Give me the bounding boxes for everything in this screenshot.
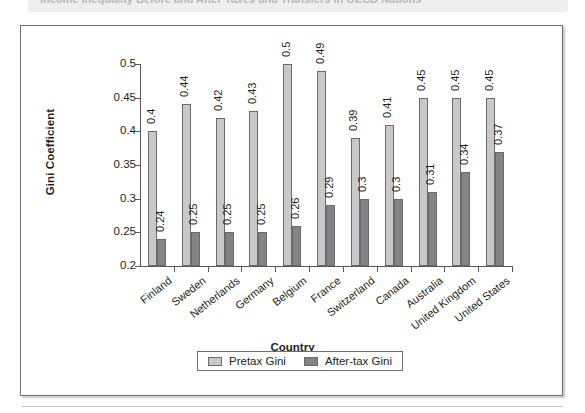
bar-aftertax[interactable]: 0.26: [292, 226, 301, 266]
bar-value-label: 0.42: [213, 89, 224, 110]
y-axis-tick-label: 0.35: [104, 159, 136, 171]
figure-frame: Gini Coefficient 0.20.250.30.350.40.450.…: [20, 25, 563, 396]
bar-value-label: 0.25: [222, 204, 233, 225]
y-axis-tick-label: 0.2: [104, 260, 136, 272]
bar-group[interactable]: 0.420.25: [208, 64, 242, 266]
bar-value-label: 0.39: [348, 110, 359, 131]
bar-value-label: 0.45: [450, 69, 461, 90]
x-axis-tick-mark: [309, 267, 310, 272]
bar-value-label: 0.3: [357, 176, 368, 191]
bar-value-label: 0.45: [416, 69, 427, 90]
figure-caption-strip: Income Inequality Before and After Taxes…: [28, 0, 568, 12]
page-bottom-rule: [22, 406, 563, 407]
y-axis-tick-label: 0.3: [104, 193, 136, 205]
bar-pretax[interactable]: 0.43: [249, 111, 258, 266]
bar-value-label: 0.25: [256, 204, 267, 225]
bar-aftertax[interactable]: 0.3: [360, 199, 369, 266]
bar-value-label: 0.25: [188, 204, 199, 225]
x-axis-tick-mark: [343, 267, 344, 272]
bar-group[interactable]: 0.430.25: [241, 64, 275, 266]
bar-pretax[interactable]: 0.5: [283, 64, 292, 266]
bar-group[interactable]: 0.450.34: [444, 64, 478, 266]
bar-group[interactable]: 0.450.37: [478, 64, 512, 266]
bar-value-label: 0.34: [459, 143, 470, 164]
x-axis-tick-mark: [512, 267, 513, 272]
bar-value-label: 0.5: [281, 42, 292, 57]
bar-group[interactable]: 0.450.31: [411, 64, 445, 266]
bar-aftertax[interactable]: 0.25: [191, 232, 200, 266]
chart-legend: Pretax GiniAfter-tax Gini: [197, 351, 403, 371]
bar-value-label: 0.26: [290, 197, 301, 218]
x-axis-tick-mark: [241, 267, 242, 272]
bar-value-label: 0.43: [247, 83, 258, 104]
x-axis-tick-mark: [478, 267, 479, 272]
bar-pretax[interactable]: 0.49: [317, 71, 326, 266]
legend-swatch: [208, 357, 222, 366]
bar-pretax[interactable]: 0.4: [148, 131, 157, 266]
x-axis-category-label: Finland: [139, 275, 174, 306]
x-axis-tick-mark: [275, 267, 276, 272]
bar-value-label: 0.44: [179, 76, 190, 97]
bar-group[interactable]: 0.490.29: [309, 64, 343, 266]
x-axis-tick-mark: [411, 267, 412, 272]
bar-value-label: 0.24: [155, 211, 166, 232]
bar-group[interactable]: 0.440.25: [174, 64, 208, 266]
legend-swatch: [304, 357, 318, 366]
bar-value-label: 0.41: [382, 96, 393, 117]
bar-value-label: 0.3: [391, 176, 402, 191]
y-axis-tick-label: 0.5: [104, 58, 136, 70]
bar-pretax[interactable]: 0.39: [351, 138, 360, 266]
bar-group[interactable]: 0.40.24: [140, 64, 174, 266]
bar-group[interactable]: 0.50.26: [275, 64, 309, 266]
x-axis-tick-mark: [377, 267, 378, 272]
bar-group[interactable]: 0.390.3: [343, 64, 377, 266]
legend-label: Pretax Gini: [229, 355, 286, 367]
figure-caption-text: Income Inequality Before and After Taxes…: [40, 0, 421, 5]
x-axis-tick-mark: [208, 267, 209, 272]
x-axis-tick-mark: [444, 267, 445, 272]
bar-pretax[interactable]: 0.45: [452, 98, 461, 266]
bar-aftertax[interactable]: 0.3: [394, 199, 403, 266]
legend-label: After-tax Gini: [325, 355, 392, 367]
bar-aftertax[interactable]: 0.24: [157, 239, 166, 266]
legend-item[interactable]: Pretax Gini: [208, 355, 286, 367]
bar-value-label: 0.31: [425, 164, 436, 185]
bar-aftertax[interactable]: 0.34: [461, 172, 470, 266]
plot-area: 0.40.240.440.250.420.250.430.250.50.260.…: [140, 64, 512, 266]
x-axis-tick-mark: [174, 267, 175, 272]
bar-aftertax[interactable]: 0.25: [258, 232, 267, 266]
bar-group[interactable]: 0.410.3: [377, 64, 411, 266]
y-axis-tick-label: 0.25: [104, 226, 136, 238]
bar-pretax[interactable]: 0.42: [216, 118, 225, 266]
bar-value-label: 0.4: [146, 109, 157, 124]
bar-aftertax[interactable]: 0.37: [495, 152, 504, 266]
bar-aftertax[interactable]: 0.31: [428, 192, 437, 266]
bar-pretax[interactable]: 0.41: [385, 125, 394, 266]
y-axis-title: Gini Coefficient: [44, 92, 56, 212]
bar-value-label: 0.29: [324, 177, 335, 198]
bar-value-label: 0.49: [315, 42, 326, 63]
x-axis-line: [140, 266, 513, 267]
bar-pretax[interactable]: 0.44: [182, 104, 191, 266]
y-axis-tick-label: 0.4: [104, 125, 136, 137]
bar-aftertax[interactable]: 0.25: [225, 232, 234, 266]
bar-chart: Gini Coefficient 0.20.250.30.350.40.450.…: [21, 26, 564, 397]
bar-value-label: 0.45: [484, 69, 495, 90]
y-axis-tick-label: 0.45: [104, 92, 136, 104]
legend-item[interactable]: After-tax Gini: [304, 355, 392, 367]
x-axis-category-label: Belgium: [271, 275, 309, 308]
bar-value-label: 0.37: [493, 123, 504, 144]
bar-aftertax[interactable]: 0.29: [326, 205, 335, 266]
